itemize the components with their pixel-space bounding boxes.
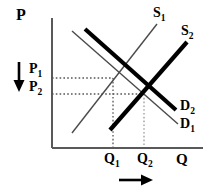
price-label-p2: P2 (29, 80, 42, 97)
curve-label-d1-sub: 1 (190, 124, 195, 134)
price-label-p1-base: P (29, 61, 38, 76)
curve-label-d1: D1 (180, 117, 195, 134)
curve-label-s1: S1 (153, 6, 166, 23)
quantity-label-q2-sub: 2 (148, 159, 153, 169)
price-label-p1: P1 (29, 62, 42, 79)
curve-label-s1-base: S (153, 5, 161, 20)
x-axis-label: Q (176, 152, 188, 167)
y-axis-label: P (16, 7, 26, 23)
quantity-increase-arrow-icon (119, 175, 153, 186)
quantity-label-q2: Q2 (137, 152, 153, 169)
quantity-label-q1-base: Q (104, 151, 115, 166)
curve-label-d2-base: D (180, 98, 190, 113)
curve-label-s2: S2 (181, 24, 194, 41)
supply-demand-diagram: P P1 P2 S1 S2 D2 D1 Q1 Q2 Q (0, 0, 212, 193)
price-label-p1-sub: 1 (38, 69, 43, 79)
price-decrease-arrow-icon (14, 62, 25, 92)
curve-s1-thin (72, 24, 157, 133)
price-label-p2-base: P (29, 79, 38, 94)
quantity-label-q2-base: Q (137, 151, 148, 166)
curve-label-d1-base: D (180, 116, 190, 131)
quantity-label-q1-sub: 1 (115, 159, 120, 169)
curve-label-s2-sub: 2 (189, 31, 194, 41)
curve-label-s1-sub: 1 (161, 13, 166, 23)
price-label-p2-sub: 2 (38, 87, 43, 97)
quantity-label-q1: Q1 (104, 152, 120, 169)
curve-label-d2-sub: 2 (190, 106, 195, 116)
curve-label-d2: D2 (180, 99, 195, 116)
curve-label-s2-base: S (181, 23, 189, 38)
